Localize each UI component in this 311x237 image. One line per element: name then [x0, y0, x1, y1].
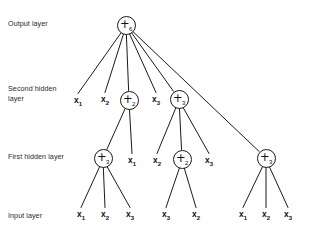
- edge-out-plus6-to-sh-x3: [130, 34, 156, 93]
- edge-sh-plus2-to-fh-x1: [129, 109, 132, 153]
- variable-node-fh-x1[interactable]: x1: [128, 155, 136, 167]
- variable-node-in-x1-c[interactable]: x1: [239, 209, 247, 221]
- variable-subscript: 3: [131, 215, 134, 221]
- variable-subscript: 2: [106, 100, 109, 106]
- edge-out-plus6-to-fh-plus3-right: [133, 32, 259, 152]
- op-node-out-plus6[interactable]: +6: [117, 16, 136, 35]
- variable-node-in-x3-a[interactable]: x3: [126, 209, 134, 221]
- op-subscript: 3: [182, 100, 185, 106]
- variable-subscript: 2: [158, 161, 161, 167]
- variable-subscript: 1: [133, 161, 136, 167]
- layer-label-input-layer: Input layer: [8, 211, 42, 221]
- op-node-sh-plus2[interactable]: +2: [120, 91, 139, 110]
- variable-node-in-x3-c[interactable]: x3: [284, 209, 292, 221]
- edge-fh-plus2-mid-to-in-x2-b: [184, 168, 196, 207]
- variable-node-in-x1-a[interactable]: x1: [77, 209, 85, 221]
- variable-node-sh-x1[interactable]: x1: [74, 95, 82, 107]
- op-subscript: 3: [269, 159, 272, 165]
- variable-subscript: 3: [210, 161, 213, 167]
- variable-node-sh-x3[interactable]: x3: [152, 94, 160, 106]
- op-subscript: 2: [185, 160, 188, 166]
- variable-subscript: 3: [167, 215, 170, 221]
- variable-node-in-x2-b[interactable]: x2: [192, 209, 200, 221]
- edge-sh-plus2-to-fh-plus3-left: [107, 109, 125, 150]
- op-subscript: 6: [129, 26, 132, 32]
- op-node-fh-plus3-right[interactable]: +3: [257, 149, 276, 168]
- edge-sh-plus3-to-fh-plus2-mid: [179, 108, 181, 149]
- op-node-fh-plus2-mid[interactable]: +2: [173, 150, 192, 169]
- variable-node-in-x2-c[interactable]: x2: [262, 209, 270, 221]
- variable-node-sh-x2[interactable]: x2: [101, 94, 109, 106]
- variable-subscript: 2: [197, 215, 200, 221]
- op-subscript: 3: [106, 159, 109, 165]
- variable-node-in-x3-b[interactable]: x3: [162, 209, 170, 221]
- edge-sh-plus3-to-fh-x3: [183, 108, 209, 154]
- op-node-sh-plus3[interactable]: +3: [170, 90, 189, 109]
- edge-fh-plus3-right-to-in-x3-c: [269, 167, 288, 208]
- edge-fh-plus3-left-to-in-x2-a: [103, 167, 105, 207]
- layer-label-first-hidden-layer: First hidden layer: [8, 152, 64, 162]
- op-subscript: 2: [132, 101, 135, 107]
- variable-node-fh-x2[interactable]: x2: [153, 155, 161, 167]
- edge-fh-plus3-right-to-in-x1-c: [243, 167, 262, 208]
- edge-fh-plus2-mid-to-in-x3-b: [166, 168, 179, 207]
- variable-subscript: 3: [157, 100, 160, 106]
- variable-subscript: 3: [289, 215, 292, 221]
- edge-out-plus6-to-sh-plus2: [126, 34, 128, 90]
- variable-subscript: 2: [267, 215, 270, 221]
- layer-label-output-layer: Output layer: [8, 19, 48, 29]
- edge-sh-plus3-to-fh-x2: [157, 108, 176, 154]
- variable-subscript: 1: [82, 215, 85, 221]
- edges-layer: [0, 0, 311, 237]
- layer-label-second-hidden-layer: Second hidden layer: [8, 84, 57, 103]
- variable-subscript: 1: [244, 215, 247, 221]
- neural-network-diagram: Output layerSecond hidden layerFirst hid…: [0, 0, 311, 237]
- variable-node-in-x2-a[interactable]: x2: [101, 209, 109, 221]
- edge-fh-plus3-left-to-in-x3-a: [107, 167, 130, 208]
- edge-out-plus6-to-sh-plus3: [132, 33, 174, 92]
- op-node-fh-plus3-left[interactable]: +3: [94, 149, 113, 168]
- variable-node-fh-x3[interactable]: x3: [205, 155, 213, 167]
- variable-subscript: 1: [79, 101, 82, 107]
- variable-subscript: 2: [106, 215, 109, 221]
- edge-fh-plus3-left-to-in-x1-a: [81, 167, 100, 208]
